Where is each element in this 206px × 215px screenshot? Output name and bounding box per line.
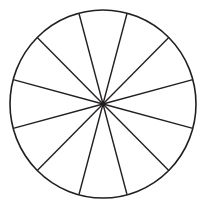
fraction-circle-figure: Circle divided into twelve equal sectors… bbox=[0, 0, 206, 215]
circle-center-point bbox=[101, 102, 105, 106]
fraction-circle-svg: Circle divided into twelve equal sectors… bbox=[0, 0, 206, 215]
